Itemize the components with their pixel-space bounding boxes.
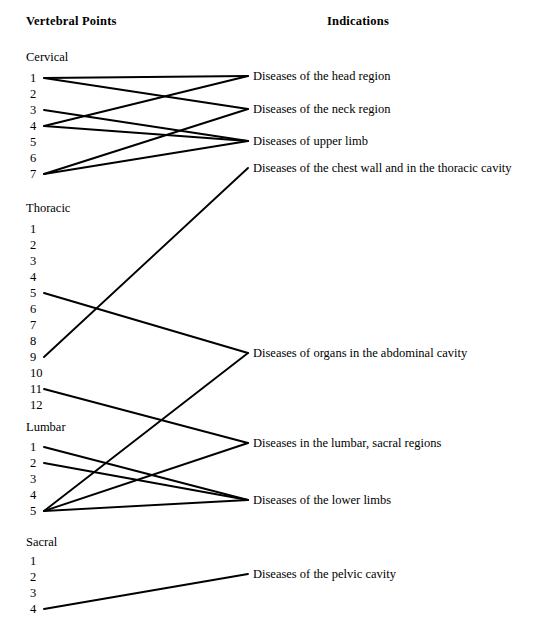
vertebra-thoracic-4[interactable]: 4 bbox=[30, 271, 36, 284]
indication-lumbosac[interactable]: Diseases in the lumbar, sacral regions bbox=[253, 436, 441, 451]
vertebra-thoracic-12[interactable]: 12 bbox=[30, 399, 43, 412]
vertebra-thoracic-9[interactable]: 9 bbox=[30, 351, 36, 364]
link-lumbar-5-to-lower bbox=[44, 500, 248, 511]
link-lumbar-2-to-lower bbox=[44, 463, 248, 500]
vertebra-thoracic-8[interactable]: 8 bbox=[30, 335, 36, 348]
link-cervical-1-to-head bbox=[44, 76, 248, 78]
indication-pelvic[interactable]: Diseases of the pelvic cavity bbox=[253, 567, 396, 582]
column-header-vertebral-points: Vertebral Points bbox=[26, 14, 117, 29]
vertebra-lumbar-2[interactable]: 2 bbox=[30, 457, 36, 470]
link-lumbar-5-to-lumbosac bbox=[44, 443, 248, 511]
vertebra-cervical-1[interactable]: 1 bbox=[30, 72, 36, 85]
indication-chest[interactable]: Diseases of the chest wall and in the th… bbox=[253, 161, 512, 176]
vertebra-cervical-5[interactable]: 5 bbox=[30, 136, 36, 149]
vertebra-thoracic-10[interactable]: 10 bbox=[30, 367, 43, 380]
link-lumbar-5-to-abdomen bbox=[44, 353, 248, 511]
connection-lines-layer bbox=[0, 0, 534, 627]
group-label-sacral: Sacral bbox=[26, 535, 57, 550]
indication-upper[interactable]: Diseases of upper limb bbox=[253, 134, 368, 149]
vertebra-thoracic-3[interactable]: 3 bbox=[30, 255, 36, 268]
vertebra-lumbar-3[interactable]: 3 bbox=[30, 473, 36, 486]
vertebral-indication-diagram: Vertebral Points Indications Cervical123… bbox=[0, 0, 534, 627]
link-cervical-4-to-upper bbox=[44, 126, 248, 141]
link-cervical-7-to-upper bbox=[44, 141, 248, 174]
vertebra-lumbar-4[interactable]: 4 bbox=[30, 489, 36, 502]
vertebra-sacral-3[interactable]: 3 bbox=[30, 587, 36, 600]
group-label-thoracic: Thoracic bbox=[26, 201, 70, 216]
link-lumbar-1-to-lower bbox=[44, 447, 248, 500]
indication-head[interactable]: Diseases of the head region bbox=[253, 69, 390, 84]
vertebra-thoracic-1[interactable]: 1 bbox=[30, 223, 36, 236]
vertebra-sacral-4[interactable]: 4 bbox=[30, 603, 36, 616]
vertebra-thoracic-7[interactable]: 7 bbox=[30, 319, 36, 332]
vertebra-sacral-1[interactable]: 1 bbox=[30, 555, 36, 568]
vertebra-cervical-7[interactable]: 7 bbox=[30, 168, 36, 181]
vertebra-thoracic-2[interactable]: 2 bbox=[30, 239, 36, 252]
link-cervical-7-to-neck bbox=[44, 109, 248, 174]
link-thoracic-11-to-lumbosac bbox=[44, 389, 248, 443]
link-thoracic-9-to-chest bbox=[44, 168, 248, 357]
link-thoracic-5-to-abdomen bbox=[44, 293, 248, 353]
vertebra-thoracic-11[interactable]: 11 bbox=[30, 383, 42, 396]
indication-abdomen[interactable]: Diseases of organs in the abdominal cavi… bbox=[253, 346, 467, 361]
column-header-indications: Indications bbox=[327, 14, 389, 29]
link-cervical-4-to-head bbox=[44, 76, 248, 126]
vertebra-cervical-6[interactable]: 6 bbox=[30, 152, 36, 165]
link-sacral-4-to-pelvic bbox=[44, 574, 248, 609]
vertebra-sacral-2[interactable]: 2 bbox=[30, 571, 36, 584]
vertebra-thoracic-6[interactable]: 6 bbox=[30, 303, 36, 316]
vertebra-lumbar-1[interactable]: 1 bbox=[30, 441, 36, 454]
link-cervical-1-to-neck bbox=[44, 78, 248, 109]
link-cervical-3-to-upper bbox=[44, 110, 248, 141]
vertebra-cervical-2[interactable]: 2 bbox=[30, 88, 36, 101]
vertebra-cervical-3[interactable]: 3 bbox=[30, 104, 36, 117]
group-label-cervical: Cervical bbox=[26, 50, 68, 65]
indication-lower[interactable]: Diseases of the lower limbs bbox=[253, 493, 391, 508]
vertebra-thoracic-5[interactable]: 5 bbox=[30, 287, 36, 300]
vertebra-cervical-4[interactable]: 4 bbox=[30, 120, 36, 133]
vertebra-lumbar-5[interactable]: 5 bbox=[30, 505, 36, 518]
indication-neck[interactable]: Diseases of the neck region bbox=[253, 102, 390, 117]
group-label-lumbar: Lumbar bbox=[26, 420, 66, 435]
